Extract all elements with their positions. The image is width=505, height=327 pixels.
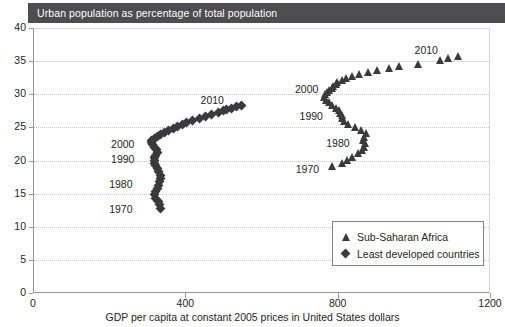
y-tick-mark <box>29 28 33 29</box>
year-annotation: 2000 <box>111 138 134 150</box>
triangle-marker <box>373 66 381 74</box>
chart-title-bar: Urban population as percentage of total … <box>28 3 505 23</box>
y-tick-label: 25 <box>0 120 26 132</box>
gridline <box>34 127 489 128</box>
gridline <box>34 28 489 29</box>
gridline <box>34 194 489 195</box>
year-annotation: 1980 <box>326 137 349 149</box>
year-annotation: 1990 <box>300 110 323 122</box>
y-tick-mark <box>29 293 33 294</box>
chart-root: Urban population as percentage of total … <box>0 0 505 327</box>
triangle-marker-icon <box>342 233 357 241</box>
x-tick-label: 1200 <box>460 297 505 309</box>
chart-legend: Sub-Saharan Africa Least developed count… <box>332 221 484 266</box>
legend-item-least-developed-countries: Least developed countries <box>342 245 483 262</box>
y-tick-mark <box>29 127 33 128</box>
y-tick-mark <box>29 161 33 162</box>
y-tick-label: 40 <box>0 21 26 33</box>
gridline <box>34 94 489 95</box>
x-tick-label: 800 <box>308 297 368 309</box>
year-annotation: 1990 <box>111 153 134 165</box>
y-tick-mark <box>29 61 33 62</box>
year-annotation: 2010 <box>415 44 438 56</box>
y-tick-label: 15 <box>0 187 26 199</box>
legend-label: Sub-Saharan Africa <box>357 231 448 243</box>
triangle-marker <box>395 62 403 70</box>
legend-item-sub-saharan-africa: Sub-Saharan Africa <box>342 228 483 245</box>
triangle-marker <box>355 70 363 78</box>
y-tick-label: 10 <box>0 220 26 232</box>
x-axis-title: GDP per capita at constant 2005 prices i… <box>0 311 505 323</box>
year-annotation: 1970 <box>109 203 132 215</box>
triangle-marker <box>364 68 372 76</box>
gridline <box>34 161 489 162</box>
chart-title: Urban population as percentage of total … <box>28 7 277 19</box>
triangle-marker <box>414 60 422 68</box>
triangle-marker <box>436 56 444 64</box>
x-tick-label: 0 <box>3 297 63 309</box>
year-annotation: 2010 <box>201 94 224 106</box>
y-tick-label: 35 <box>0 54 26 66</box>
diamond-marker-icon <box>342 250 357 257</box>
triangle-marker <box>351 123 359 131</box>
x-tick-mark <box>338 293 339 298</box>
year-annotation: 1970 <box>296 163 319 175</box>
x-tick-mark <box>185 293 186 298</box>
y-tick-mark <box>29 94 33 95</box>
y-tick-mark <box>29 227 33 228</box>
year-annotation: 2000 <box>295 83 318 95</box>
triangle-marker <box>444 54 452 62</box>
y-tick-mark <box>29 194 33 195</box>
triangle-marker <box>385 64 393 72</box>
x-tick-label: 400 <box>155 297 215 309</box>
y-tick-label: 5 <box>0 253 26 265</box>
y-tick-label: 20 <box>0 154 26 166</box>
triangle-marker <box>328 162 336 170</box>
y-tick-label: 30 <box>0 87 26 99</box>
year-annotation: 1980 <box>109 178 132 190</box>
triangle-marker <box>454 52 462 60</box>
y-tick-mark <box>29 260 33 261</box>
legend-label: Least developed countries <box>357 248 480 260</box>
x-tick-mark <box>490 293 491 298</box>
